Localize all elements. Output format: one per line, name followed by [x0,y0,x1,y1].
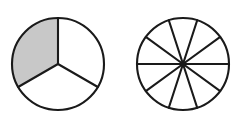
left-circle-svg [0,0,122,129]
fraction-circles-figure [0,0,244,129]
right-circle-figure [122,0,244,129]
right-circle-center-hub [180,61,185,66]
left-circle-figure [0,0,122,129]
right-circle-svg [122,0,244,129]
